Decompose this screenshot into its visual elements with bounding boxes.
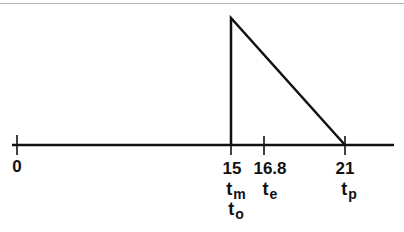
tick-label-0: 0 [12, 158, 21, 175]
tick-label-15: 15 [223, 160, 242, 177]
tick-label-21: 21 [336, 160, 355, 177]
tick-label-16-8: 16.8 [253, 160, 286, 177]
symbol-t-o: to [228, 200, 244, 221]
symbol-t-m: tm [226, 180, 245, 201]
triangle-pulse [231, 18, 345, 145]
symbol-t-e: te [263, 180, 278, 201]
symbol-t-p: tp [341, 180, 357, 201]
